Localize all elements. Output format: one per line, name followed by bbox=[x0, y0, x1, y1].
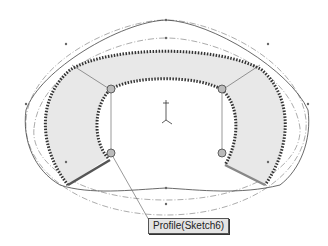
sweep-preview-graphic[interactable] bbox=[0, 0, 328, 246]
profile-callout-label[interactable]: Profile(Sketch6) bbox=[148, 218, 229, 234]
inner-edge bbox=[97, 79, 236, 165]
graphics-viewport[interactable] bbox=[0, 0, 328, 246]
coordinate-triad-icon bbox=[162, 100, 172, 124]
control-handles[interactable] bbox=[107, 85, 226, 157]
